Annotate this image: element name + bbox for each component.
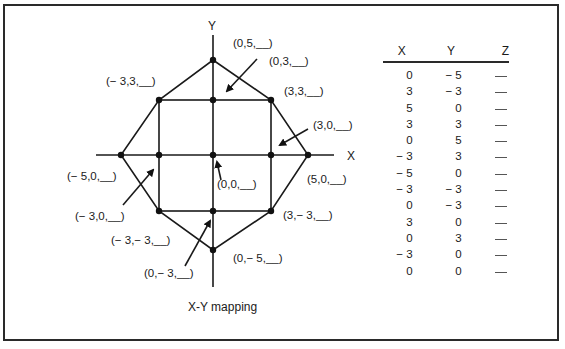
xyz-table: X Y Z 0− 53− 3503305− 33− 50− 3− 30− 330… xyxy=(383,44,509,279)
cell-z-blank xyxy=(462,67,509,83)
cell-y: 0 xyxy=(413,214,462,230)
cell-y: − 5 xyxy=(413,67,462,83)
table-row: 50 xyxy=(383,100,509,116)
cell-y: 5 xyxy=(413,132,462,148)
label-3-3: (3,3,__) xyxy=(284,85,324,97)
cell-x: 0 xyxy=(383,230,413,246)
header-y: Y xyxy=(416,44,469,61)
table-row: − 50 xyxy=(383,165,509,181)
cell-y: − 3 xyxy=(413,197,462,213)
label-5-0: (5,0,__) xyxy=(307,173,347,185)
cell-z-blank xyxy=(462,165,509,181)
cell-x: − 3 xyxy=(383,246,413,262)
blank-line xyxy=(495,83,507,93)
cell-x: − 3 xyxy=(383,181,413,197)
table-row: 00 xyxy=(383,263,509,279)
blank-line xyxy=(495,230,507,240)
cell-x: 0 xyxy=(383,132,413,148)
table-header: X Y Z xyxy=(383,44,509,61)
cell-y: 3 xyxy=(413,116,462,132)
diagram-caption: X-Y mapping xyxy=(188,300,257,314)
header-z: Z xyxy=(470,44,509,61)
arrow-0-neg3 xyxy=(185,221,210,266)
label-neg5-0: (− 5,0,__) xyxy=(67,170,117,182)
table-row: 05 xyxy=(383,132,509,148)
cell-x: 3 xyxy=(383,83,413,99)
cell-z-blank xyxy=(462,132,509,148)
table-body: 0− 53− 3503305− 33− 50− 3− 30− 33003− 30… xyxy=(383,67,509,279)
cell-z-blank xyxy=(462,83,509,99)
blank-line xyxy=(495,214,507,224)
cell-z-blank xyxy=(462,230,509,246)
table-row: 03 xyxy=(383,230,509,246)
arrow-0-3 xyxy=(227,59,257,91)
header-rule xyxy=(383,61,509,63)
cell-y: 0 xyxy=(413,100,462,116)
table-row: 30 xyxy=(383,214,509,230)
label-0-neg5: (0,− 5,__) xyxy=(233,252,283,264)
table-row: − 3− 3 xyxy=(383,181,509,197)
cell-z-blank xyxy=(462,263,509,279)
header-x: X xyxy=(383,44,416,61)
blank-line xyxy=(495,100,507,110)
cell-y: 0 xyxy=(413,263,462,279)
cell-x: 3 xyxy=(383,116,413,132)
cell-y: − 3 xyxy=(413,83,462,99)
cell-z-blank xyxy=(462,214,509,230)
table-row: 0− 3 xyxy=(383,197,509,213)
cell-z-blank xyxy=(462,148,509,164)
table-row: 33 xyxy=(383,116,509,132)
blank-line xyxy=(495,148,507,158)
cell-x: 0 xyxy=(383,67,413,83)
cell-x: − 5 xyxy=(383,165,413,181)
cell-z-blank xyxy=(462,181,509,197)
label-0-3: (0,3,__) xyxy=(269,55,309,67)
label-0-neg3: (0,− 3,__) xyxy=(144,267,194,279)
cell-y: 0 xyxy=(413,165,462,181)
cell-x: 0 xyxy=(383,197,413,213)
arrow-3-0 xyxy=(280,129,308,145)
cell-y: 3 xyxy=(413,148,462,164)
arrow-neg3-0 xyxy=(123,170,153,205)
y-axis-label: Y xyxy=(208,19,216,33)
cell-z-blank xyxy=(462,100,509,116)
x-axis-label: X xyxy=(347,149,355,163)
cell-x: 0 xyxy=(383,263,413,279)
cell-z-blank xyxy=(462,197,509,213)
cell-x: 3 xyxy=(383,214,413,230)
label-neg3-0: (− 3,0,__) xyxy=(75,210,125,222)
blank-line xyxy=(495,181,507,191)
cell-x: 5 xyxy=(383,100,413,116)
label-0-0: (0,0,__) xyxy=(217,178,257,190)
blank-line xyxy=(495,132,507,142)
label-neg3-3: (− 3,3,__) xyxy=(106,75,156,87)
cell-y: 0 xyxy=(413,246,462,262)
blank-line xyxy=(495,116,507,126)
blank-line xyxy=(495,67,507,77)
label-0-5: (0,5,__) xyxy=(233,37,273,49)
label-3-0: (3,0,__) xyxy=(313,119,353,131)
blank-line xyxy=(495,246,507,256)
cell-z-blank xyxy=(462,116,509,132)
cell-y: 3 xyxy=(413,230,462,246)
cell-z-blank xyxy=(462,246,509,262)
label-neg3-neg3: (− 3,− 3,__) xyxy=(111,234,171,246)
table-row: 0− 5 xyxy=(383,67,509,83)
cell-y: − 3 xyxy=(413,181,462,197)
blank-line xyxy=(495,197,507,207)
table-row: − 30 xyxy=(383,246,509,262)
blank-line xyxy=(495,263,507,273)
table-row: 3− 3 xyxy=(383,83,509,99)
label-3-neg3: (3,− 3,__) xyxy=(283,209,333,221)
table-row: − 33 xyxy=(383,148,509,164)
blank-line xyxy=(495,165,507,175)
cell-x: − 3 xyxy=(383,148,413,164)
